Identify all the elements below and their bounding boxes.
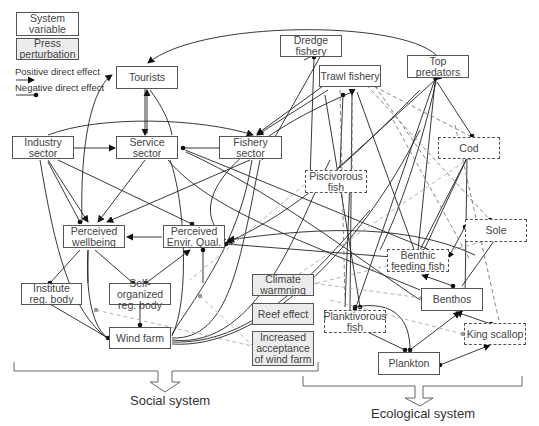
node-benthos: Benthos [421, 288, 483, 311]
legend-system-variable: System variable [16, 12, 79, 36]
node-industry-sector: Industry sector [12, 136, 74, 159]
node-wind-farm: Wind farm [109, 327, 171, 349]
node-perceived-envir-qual: Perceived Envir. Qual. [163, 225, 225, 248]
node-tourists: Tourists [116, 66, 178, 89]
legend-positive-effect: Positive direct effect [15, 66, 100, 77]
legend-press-perturbation: Press perturbation [16, 38, 79, 60]
node-king-scallop: King scallop [464, 323, 526, 345]
node-cod: Cod [438, 137, 500, 159]
node-dredge-fishery: Dredge fishery [280, 35, 342, 57]
node-fishery-sector: Fishery sector [219, 136, 282, 159]
node-reef-effect: Reef effect [252, 303, 314, 325]
label-ecological-system: Ecological system [371, 406, 475, 421]
node-institute-reg-body: Institute reg. body [21, 283, 82, 305]
label-social-system: Social system [130, 393, 210, 408]
node-service-sector: Service sector [116, 136, 178, 159]
node-sole: Sole [465, 219, 527, 242]
legend-negative-effect: Negative direct effect [15, 82, 104, 93]
node-self-organized-reg-body: Self-organized reg. body [109, 283, 171, 305]
node-planktivorous-fish: Planktivorous fish [324, 310, 386, 333]
node-benthic-feeding-fish: Benthic feeding fish [387, 249, 449, 272]
node-increased-acceptance: Increased acceptance of wind farm [252, 331, 314, 366]
node-piscivorous-fish: Piscivorous fish [305, 170, 367, 193]
node-top-predators: Top predators [407, 55, 469, 78]
node-trawl-fishery: Trawl fishery [319, 65, 381, 87]
node-perceived-wellbeing: Perceived wellbeing [63, 225, 125, 248]
node-climate-warming: Climate warmning [252, 274, 314, 296]
node-plankton: Plankton [378, 352, 440, 375]
